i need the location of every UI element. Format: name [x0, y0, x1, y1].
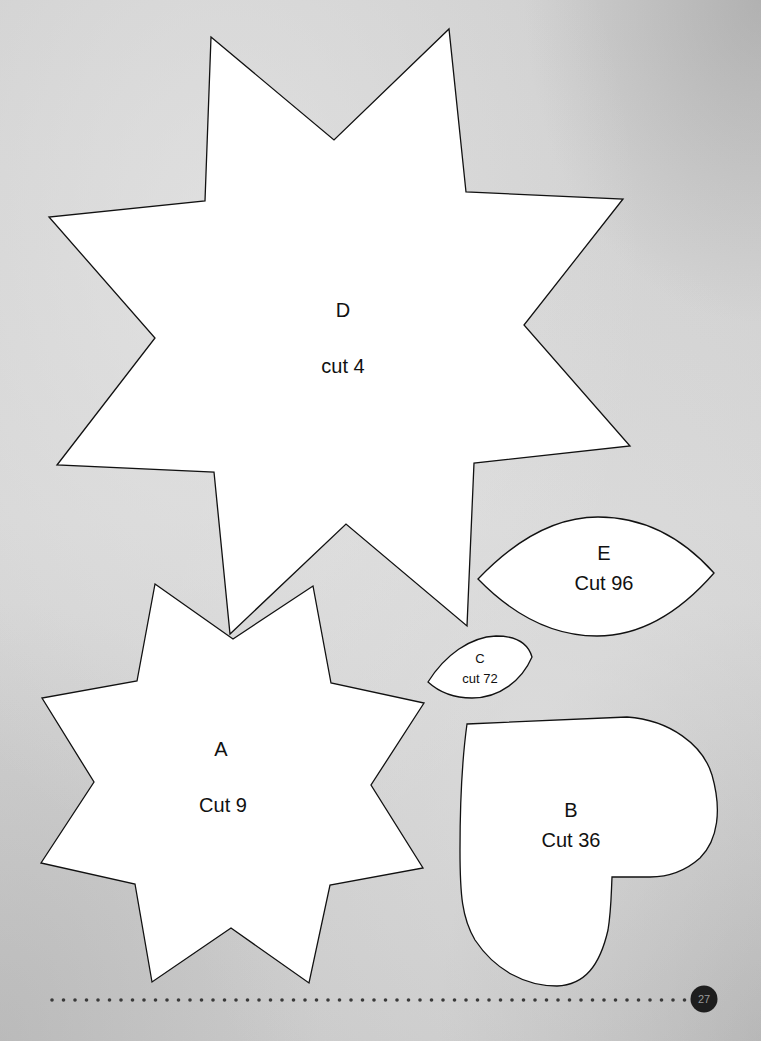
template-a-instruction: Cut 9	[199, 794, 247, 816]
template-e: E Cut 96	[478, 517, 714, 636]
template-d-letter: D	[336, 299, 350, 321]
template-c-instruction: cut 72	[462, 671, 497, 686]
star-a-outline	[41, 584, 424, 983]
template-c: C cut 72	[428, 636, 532, 698]
template-c-letter: C	[475, 651, 484, 666]
template-e-letter: E	[597, 542, 610, 564]
template-e-instruction: Cut 96	[575, 572, 634, 594]
template-b: B Cut 36	[460, 717, 717, 986]
template-d-instruction: cut 4	[321, 355, 364, 377]
page-number-badge: 27	[691, 986, 718, 1013]
leaf-c-outline	[428, 636, 532, 698]
template-b-letter: B	[564, 799, 577, 821]
page-number: 27	[698, 993, 710, 1005]
heart-b-outline	[460, 717, 717, 986]
template-a: A Cut 9	[41, 584, 424, 983]
template-a-letter: A	[214, 738, 228, 760]
template-b-instruction: Cut 36	[542, 829, 601, 851]
dotted-rule	[50, 998, 686, 1002]
pattern-sheet: D cut 4 A Cut 9 E Cut 96 C cut 72 B Cut …	[0, 0, 761, 1041]
